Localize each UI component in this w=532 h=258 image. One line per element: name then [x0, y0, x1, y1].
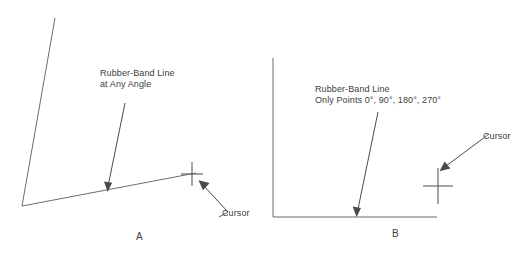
panel-b-cursor-label: Cursor — [483, 131, 511, 142]
panel-a-graphics — [22, 18, 228, 217]
panel-a-diagonal-ray — [22, 18, 55, 206]
panel-a-callout-arrow-shaft — [109, 103, 126, 184]
panel-b-cursor-arrow-shaft — [446, 140, 481, 166]
panel-b-graphics — [273, 58, 489, 217]
panel-a-cursor-label: Cursor — [222, 208, 250, 219]
panel-b-callout-label: Rubber-Band Line Only Points 0°, 90°, 18… — [315, 84, 441, 106]
panel-a-caption: A — [136, 231, 143, 242]
panel-b-cursor-arrow-head — [440, 162, 451, 172]
panel-a-callout-label-line1: Rubber-Band Line — [100, 68, 175, 79]
panel-b-callout-arrow-head — [353, 207, 361, 217]
panel-a-cursor-arrow-head — [199, 180, 210, 190]
panel-a-callout-label: Rubber-Band Line at Any Angle — [100, 68, 175, 90]
panel-b-callout-arrow-shaft — [358, 112, 378, 209]
panel-b-cursor-crosshair — [423, 168, 453, 204]
panel-b-callout-label-line1: Rubber-Band Line — [315, 84, 441, 95]
figure-root: Rubber-Band Line at Any Angle Cursor A R… — [0, 0, 532, 258]
panel-a-rubber-band-line — [22, 173, 196, 206]
panel-b-callout-label-line2: Only Points 0°, 90°, 180°, 270° — [315, 95, 441, 106]
panel-b-caption: B — [392, 228, 399, 239]
diagram-canvas — [0, 0, 532, 258]
panel-a-callout-label-line2: at Any Angle — [100, 79, 175, 90]
